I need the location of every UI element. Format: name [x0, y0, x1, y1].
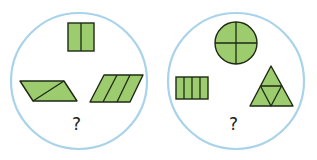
square-halves-shape: [68, 23, 94, 51]
left-question-mark: ?: [72, 114, 81, 134]
rectangle-quarters-shape: [176, 77, 208, 99]
right-question-mark: ?: [229, 114, 238, 134]
circle-quarters-shape: [215, 22, 257, 64]
figure-canvas: [0, 0, 317, 160]
